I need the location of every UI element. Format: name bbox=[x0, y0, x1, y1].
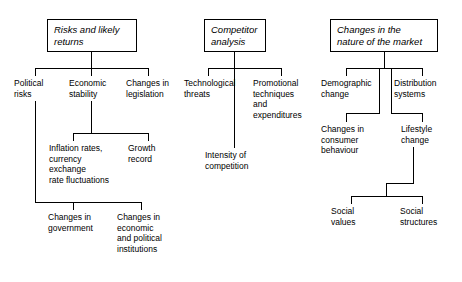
connector-market-bar bbox=[346, 68, 423, 69]
node-social-structures: Social structures bbox=[400, 206, 458, 227]
node-political-risks: Political risks bbox=[14, 78, 64, 99]
connector-economic-bar bbox=[73, 133, 149, 134]
connector-economic-drop-inflation bbox=[73, 133, 74, 141]
node-intensity-of-competition: Intensity of competition bbox=[205, 150, 275, 171]
connector-demographic-stem bbox=[379, 68, 380, 114]
connector-economic-stem bbox=[91, 101, 92, 134]
connector-competitor-drop-promotional bbox=[281, 68, 282, 76]
connector-market-drop-demographic bbox=[346, 68, 347, 76]
diagram-canvas: Risks and likely returns Political risks… bbox=[0, 0, 462, 282]
connector-risks-drop-legislation bbox=[148, 68, 149, 76]
node-inflation-rates: Inflation rates, currency exchange rate … bbox=[49, 143, 119, 185]
node-changes-in-nature-of-market: Changes in the nature of the market bbox=[330, 19, 438, 52]
connector-distribution-stem bbox=[391, 68, 392, 114]
connector-political-bar bbox=[35, 202, 141, 203]
node-distribution-systems: Distribution systems bbox=[394, 78, 452, 99]
connector-social-drop-structures bbox=[422, 196, 423, 204]
node-changes-in-institutions: Changes in economic and political instit… bbox=[117, 212, 175, 254]
node-risks-and-likely-returns: Risks and likely returns bbox=[47, 19, 137, 52]
connector-economic-drop-growth bbox=[148, 133, 149, 141]
connector-competitor-intensity-stem bbox=[234, 68, 235, 148]
connector-risks-drop-political bbox=[35, 68, 36, 76]
node-lifestyle-change: Lifestyle change bbox=[401, 124, 451, 145]
connector-lifestyle-stem bbox=[413, 147, 414, 184]
node-growth-record: Growth record bbox=[128, 143, 178, 164]
node-demographic-change: Demographic change bbox=[321, 78, 381, 99]
connector-market-drop-distribution bbox=[422, 68, 423, 76]
connector-distribution-drop-lifestyle bbox=[422, 113, 423, 122]
connector-competitor-drop-technological bbox=[208, 68, 209, 76]
connector-political-stem bbox=[35, 101, 36, 202]
node-social-values: Social values bbox=[331, 206, 377, 227]
node-changes-in-government: Changes in government bbox=[48, 212, 108, 233]
node-changes-in-legislation: Changes in legislation bbox=[126, 78, 186, 99]
connector-demographic-bar bbox=[346, 113, 380, 114]
connector-demographic-drop-consumer bbox=[346, 113, 347, 122]
connector-social-drop-values bbox=[351, 196, 352, 204]
connector-competitor-stem bbox=[234, 52, 235, 69]
connector-risks-stem bbox=[91, 52, 92, 69]
connector-political-drop-institutions bbox=[141, 202, 142, 210]
connector-political-drop-government bbox=[73, 202, 74, 210]
connector-distribution-bar bbox=[391, 113, 423, 114]
connector-risks-drop-economic bbox=[91, 68, 92, 76]
connector-lifestyle-jog bbox=[386, 183, 414, 184]
node-economic-stability: Economic stability bbox=[69, 78, 124, 99]
connector-market-stem bbox=[384, 52, 385, 69]
connector-social-bar bbox=[351, 196, 422, 197]
connector-lifestyle-jog-drop bbox=[386, 183, 387, 196]
node-changes-in-consumer-behaviour: Changes in consumer behaviour bbox=[321, 124, 379, 156]
connector-competitor-bar bbox=[208, 68, 281, 69]
node-promotional-techniques: Promotional techniques and expenditures bbox=[253, 78, 315, 120]
node-competitor-analysis: Competitor analysis bbox=[204, 19, 266, 52]
node-technological-threats: Technological threats bbox=[184, 78, 244, 99]
